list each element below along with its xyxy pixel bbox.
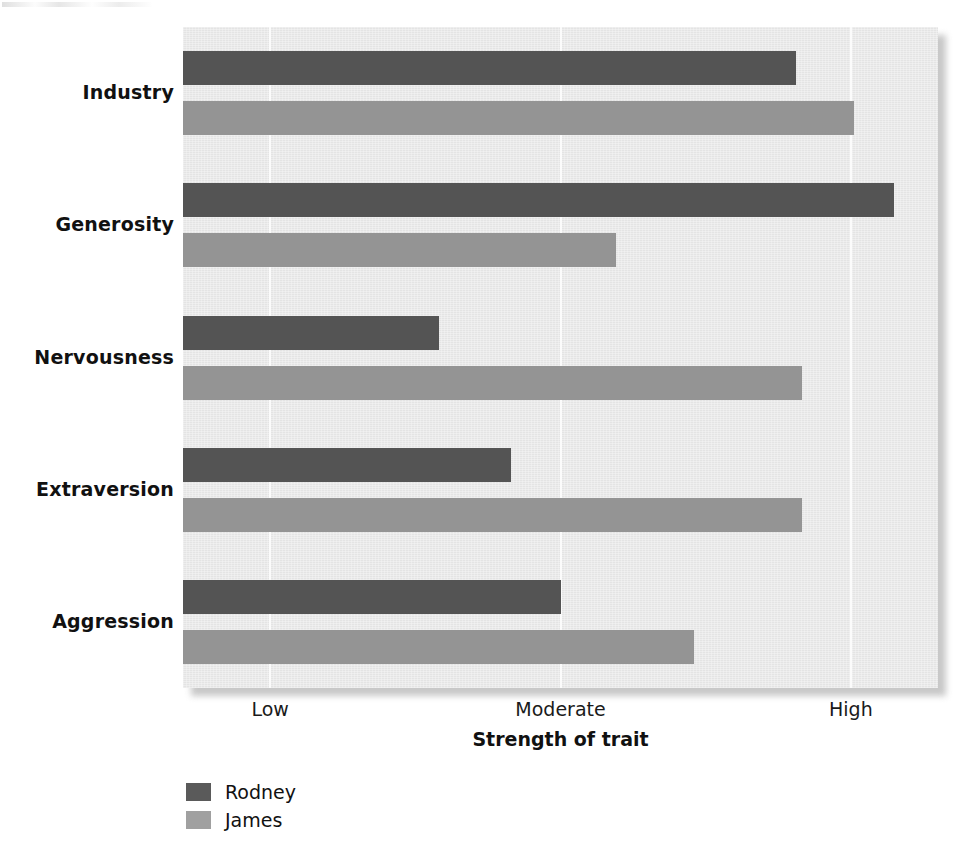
chart-legend: RodneyJames — [186, 778, 296, 834]
bar-industry-james — [183, 101, 854, 135]
x-tick-label-high: High — [829, 698, 873, 720]
category-label-nervousness: Nervousness — [0, 346, 174, 368]
legend-swatch-rodney — [186, 783, 211, 801]
bars-layer — [183, 27, 938, 688]
scan-artifact — [2, 2, 152, 7]
bar-aggression-rodney — [183, 580, 561, 614]
legend-swatch-james — [186, 811, 211, 829]
category-axis-labels: IndustryGenerosityNervousnessExtraversio… — [0, 27, 174, 688]
bar-extraversion-james — [183, 498, 802, 532]
bar-industry-rodney — [183, 51, 796, 85]
category-label-generosity: Generosity — [0, 213, 174, 235]
legend-label-rodney: Rodney — [225, 781, 296, 803]
x-axis-title: Strength of trait — [183, 728, 938, 750]
bar-nervousness-rodney — [183, 316, 439, 350]
bar-generosity-james — [183, 233, 616, 267]
x-tick-label-low: Low — [251, 698, 288, 720]
bar-nervousness-james — [183, 366, 802, 400]
bar-chart-figure: IndustryGenerosityNervousnessExtraversio… — [0, 0, 972, 854]
bar-generosity-rodney — [183, 183, 894, 217]
category-label-aggression: Aggression — [0, 610, 174, 632]
legend-label-james: James — [225, 809, 282, 831]
category-label-extraversion: Extraversion — [0, 478, 174, 500]
x-tick-label-moderate: Moderate — [515, 698, 605, 720]
x-axis-tick-labels: LowModerateHigh — [0, 698, 972, 728]
category-label-industry: Industry — [0, 81, 174, 103]
bar-aggression-james — [183, 630, 694, 664]
bar-extraversion-rodney — [183, 448, 511, 482]
legend-item-rodney[interactable]: Rodney — [186, 778, 296, 806]
plot-area — [183, 27, 938, 688]
legend-item-james[interactable]: James — [186, 806, 296, 834]
